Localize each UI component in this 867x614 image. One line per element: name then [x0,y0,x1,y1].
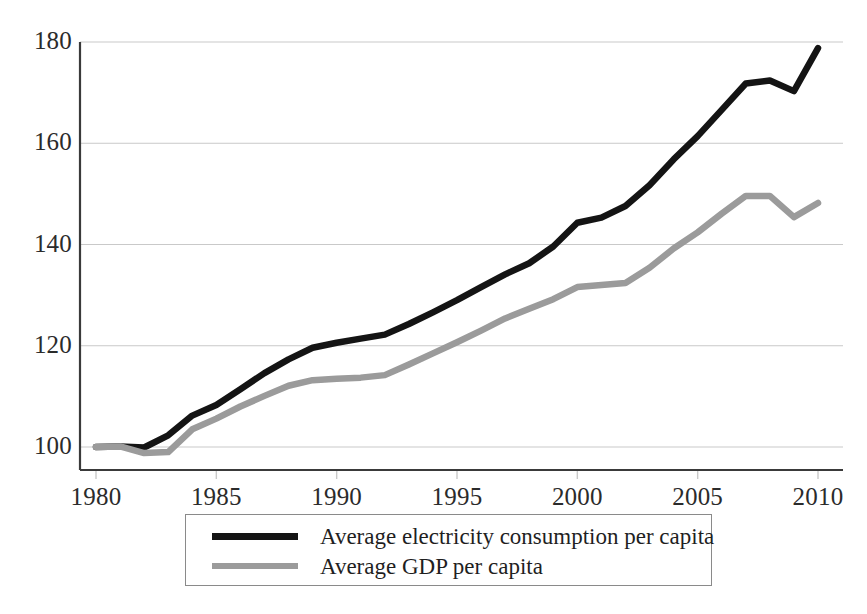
x-tick-label-2005: 2005 [658,483,738,511]
x-tick-label-1995: 1995 [417,483,497,511]
x-tick-label-1980: 1980 [56,483,136,511]
x-tick-label-2010: 2010 [778,483,858,511]
legend-label-gdp: Average GDP per capita [320,555,543,578]
data-series-group [96,48,818,453]
legend-entry-gdp: Average GDP per capita [186,551,711,581]
chart-legend: Average electricity consumption per capi… [185,514,712,586]
legend-swatch-gdp [212,563,298,569]
x-tick-label-1985: 1985 [176,483,256,511]
y-tick-label-180: 180 [34,27,72,55]
x-tick-label-1990: 1990 [297,483,377,511]
y-tick-label-140: 140 [34,230,72,258]
legend-entry-electricity: Average electricity consumption per capi… [186,521,711,551]
series-line-electricity [96,48,818,447]
legend-swatch-electricity [212,533,298,540]
series-line-gdp [96,196,818,453]
y-tick-label-160: 160 [34,128,72,156]
y-tick-label-100: 100 [34,432,72,460]
y-tick-label-120: 120 [34,331,72,359]
x-tick-marks [96,470,818,479]
chart-figure: 180160140120100 198019851990199520002005… [0,0,867,614]
legend-label-electricity: Average electricity consumption per capi… [320,525,714,548]
x-tick-label-2000: 2000 [537,483,617,511]
